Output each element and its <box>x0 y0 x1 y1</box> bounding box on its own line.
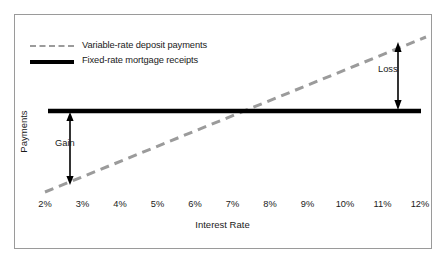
loss-annotation-label: Loss <box>378 64 398 74</box>
x-tick-label-12pct: 12% <box>403 198 437 210</box>
x-tick-label-10pct: 10% <box>328 198 362 210</box>
x-tick-label-8pct: 8% <box>253 198 287 210</box>
x-tick-label-4pct: 4% <box>103 198 137 210</box>
x-tick-label-3pct: 3% <box>66 198 100 210</box>
series-line-variable-rate <box>45 37 426 192</box>
gain-annotation-label: Gain <box>55 138 75 148</box>
x-tick-label-6pct: 6% <box>178 198 212 210</box>
gain-arrow-icon <box>66 112 73 185</box>
y-axis-title: Payments <box>18 97 29 167</box>
x-tick-label-11pct: 11% <box>366 198 400 210</box>
loss-arrow-icon <box>394 42 401 110</box>
x-axis-title: Interest Rate <box>0 219 445 230</box>
x-tick-label-5pct: 5% <box>141 198 175 210</box>
x-tick-label-2pct: 2% <box>28 198 62 210</box>
x-tick-label-7pct: 7% <box>216 198 250 210</box>
chart-figure: Variable-rate deposit payments Fixed-rat… <box>0 0 445 264</box>
x-tick-label-9pct: 9% <box>291 198 325 210</box>
x-axis-tick-labels: 2%3%4%5%6%7%8%9%10%11%12% <box>28 198 436 212</box>
